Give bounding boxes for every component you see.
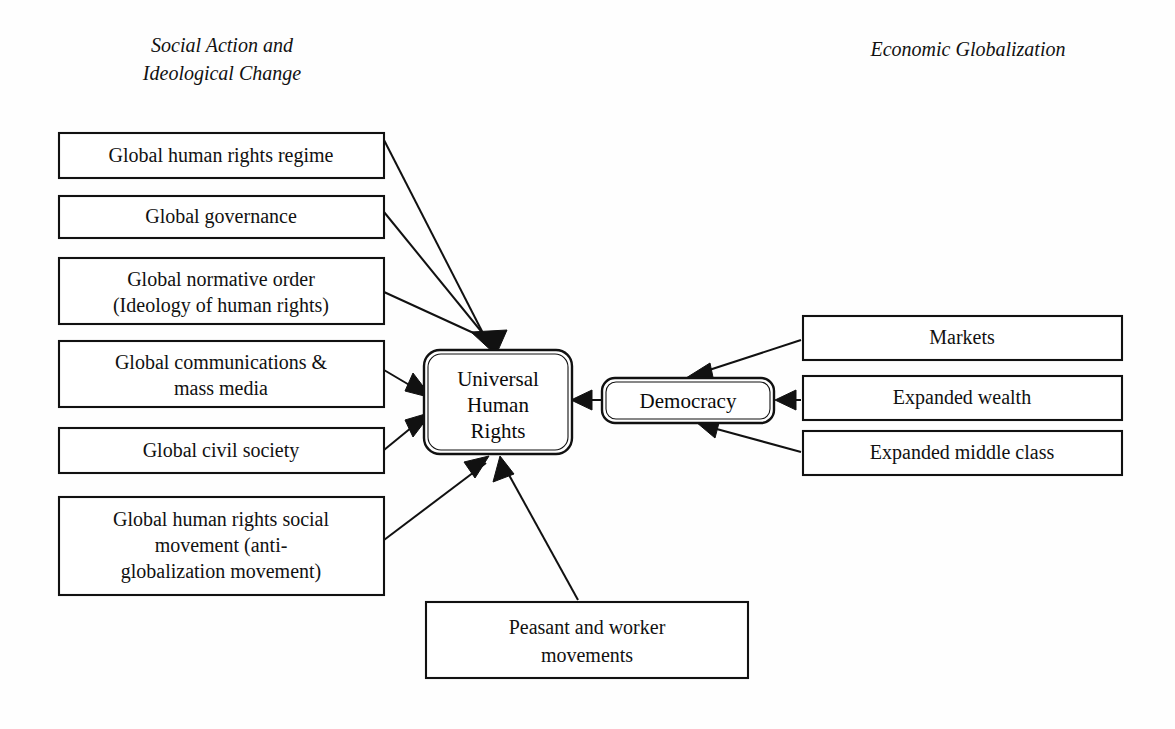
right-box-2-label-line1: Expanded wealth (893, 386, 1031, 409)
left-box-1-label-line1: Global human rights regime (109, 144, 334, 167)
node-democracy-label: Democracy (640, 389, 737, 413)
heading-social-action: Social Action and Ideological Change (142, 34, 301, 85)
connector-group-democracy-to-uhr (571, 390, 601, 410)
left-box-global-human-rights-social-movement[interactable]: Global human rights social movement (ant… (59, 497, 384, 595)
right-box-markets[interactable]: Markets (803, 316, 1122, 360)
left-box-global-human-rights-regime[interactable]: Global human rights regime (59, 133, 384, 178)
bottom-box-label-line1: Peasant and worker (509, 616, 666, 638)
node-uhr-label-line2: Human (467, 393, 529, 417)
left-box-6-label-line1: Global human rights social (113, 508, 330, 531)
left-box-6-label-line3: globalization movement) (121, 560, 322, 583)
left-box-global-civil-society[interactable]: Global civil society (59, 428, 384, 473)
diagram-canvas-container: Social Action and Ideological Change Eco… (0, 0, 1175, 729)
left-box-4-label-line1: Global communications & (115, 351, 328, 373)
connector-peasant-to-uhr (503, 464, 578, 600)
heading-economic-globalization-line1: Economic Globalization (870, 38, 1066, 60)
node-uhr-label-line1: Universal (457, 367, 539, 391)
connector-governance-to-uhr (384, 212, 489, 341)
node-democracy[interactable]: Democracy (602, 378, 774, 423)
node-uhr-label-line3: Rights (471, 419, 526, 443)
right-box-3-label-line1: Expanded middle class (870, 441, 1055, 464)
left-box-4-label-line2: mass media (174, 377, 268, 399)
bottom-box-peasant-worker-movements[interactable]: Peasant and worker movements (426, 602, 748, 678)
connector-middle-class-to-democracy (713, 428, 801, 452)
arrowhead-democracy-to-uhr (571, 390, 592, 410)
arrowhead-wealth (775, 390, 796, 410)
heading-economic-globalization: Economic Globalization (870, 38, 1066, 60)
connector-markets-to-democracy (703, 340, 801, 372)
left-box-6-label-line2: movement (anti- (155, 534, 288, 557)
right-box-expanded-wealth[interactable]: Expanded wealth (803, 376, 1122, 420)
arrowhead-social-movement (464, 456, 489, 478)
heading-social-action-line2: Ideological Change (142, 62, 301, 85)
connector-social-movement-to-uhr (384, 463, 486, 540)
left-box-global-communications[interactable]: Global communications & mass media (59, 341, 384, 407)
left-box-5-label-line1: Global civil society (143, 439, 300, 462)
right-box-expanded-middle-class[interactable]: Expanded middle class (803, 431, 1122, 475)
heading-social-action-line1: Social Action and (151, 34, 294, 56)
left-box-global-normative-order[interactable]: Global normative order (Ideology of huma… (59, 258, 384, 324)
node-universal-human-rights[interactable]: Universal Human Rights (424, 350, 572, 454)
bottom-box-label-line2: movements (541, 644, 633, 666)
bottom-box-frame (426, 602, 748, 678)
left-box-global-governance[interactable]: Global governance (59, 196, 384, 238)
left-box-3-label-line1: Global normative order (127, 268, 315, 290)
connector-regime-to-uhr (384, 140, 487, 341)
connector-group-lower (384, 456, 578, 600)
left-box-2-label-line1: Global governance (145, 205, 297, 228)
left-box-3-label-line2: (Ideology of human rights) (113, 294, 329, 317)
right-box-1-label-line1: Markets (929, 326, 995, 348)
connector-group-upper-left (384, 140, 507, 355)
